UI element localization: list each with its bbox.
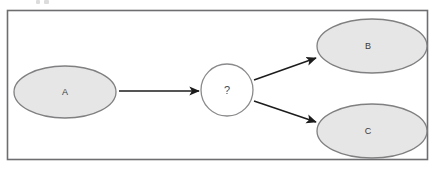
diagram-canvas: A ? B C xyxy=(0,0,435,170)
node-b-shape[interactable] xyxy=(317,19,427,73)
node-unknown-label: ? xyxy=(224,84,230,96)
node-c-shape[interactable] xyxy=(317,104,427,158)
node-a[interactable]: A xyxy=(14,66,116,118)
node-b[interactable]: B xyxy=(317,19,427,73)
node-c[interactable]: C xyxy=(317,104,427,158)
node-unknown[interactable]: ? xyxy=(201,64,253,116)
node-b-label: B xyxy=(365,41,371,51)
node-c-label: C xyxy=(365,126,372,136)
flow-diagram: A ? B C xyxy=(0,0,435,170)
node-a-label: A xyxy=(62,87,68,97)
